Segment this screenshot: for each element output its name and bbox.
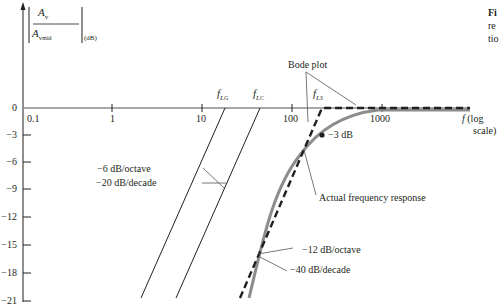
x-tick-label: 1 (110, 114, 115, 124)
caption-fragment: re (488, 19, 496, 32)
actual-response-label: Actual frequency response (319, 193, 426, 203)
x-tick-label: 100 (283, 114, 298, 124)
y-tick-label: −6 (0, 157, 17, 167)
actual-response-curve (249, 110, 470, 298)
x-axis-label-line2: scale) (473, 126, 496, 136)
f-lg-asymptote (141, 108, 225, 298)
x-tick-label: 0.1 (27, 114, 40, 124)
y-tick-label: −18 (0, 268, 17, 278)
minus-3db-label: −3 dB (328, 130, 353, 140)
x-tick-label: 1000 (370, 114, 390, 124)
y-ticks (23, 135, 31, 301)
y-tick-label: −9 (0, 184, 17, 194)
caption-fragment: Fi (488, 6, 497, 19)
x-tick-label: 10 (196, 114, 206, 124)
minus-20db-decade-label: −20 dB/decade (96, 178, 156, 188)
y-tick-label: −15 (0, 240, 17, 250)
y-tick-label: −12 (0, 212, 17, 222)
y-tick-label: −3 (0, 130, 17, 140)
f-lg-label: fLG (217, 88, 228, 102)
x-axis-label: f (log (462, 114, 483, 124)
f-lc-asymptote (176, 108, 260, 298)
y-label-unit: (dB) (84, 35, 97, 42)
y-axis-arrow-icon (21, 2, 26, 10)
y-label-numerator: Av (38, 7, 48, 21)
minus-12db-octave-label: −12 dB/octave (302, 245, 361, 255)
y-tick-label: 0 (0, 103, 17, 113)
minus-6db-octave-label: −6 dB/octave (97, 164, 151, 174)
caption-fragment: tio (488, 32, 499, 45)
f-ls-label: fLS (313, 88, 323, 102)
f-lc-label: fLC (253, 88, 264, 102)
minus-3db-point (319, 132, 324, 137)
bode-plot-label: Bode plot (288, 60, 327, 70)
minus-40db-decade-label: −40 dB/decade (290, 265, 350, 275)
y-label-denominator: Avmid (32, 28, 52, 42)
y-tick-label: −21 (0, 296, 17, 306)
